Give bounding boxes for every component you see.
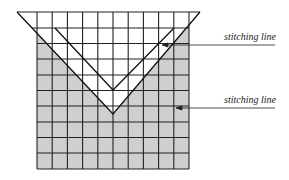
stitching-line-label-bottom: stitching line	[224, 94, 276, 105]
stitching-line-label-top: stitching line	[224, 31, 276, 42]
quilt-diagram	[0, 0, 289, 180]
